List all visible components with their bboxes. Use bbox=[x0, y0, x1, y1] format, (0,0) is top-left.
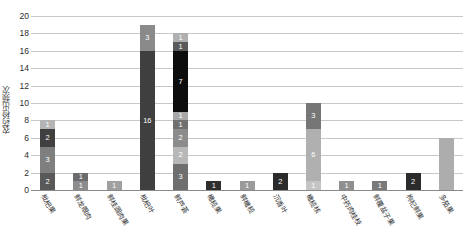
gridline bbox=[31, 33, 463, 34]
bar-segment[interactable]: 1 bbox=[240, 181, 255, 190]
bar-segment[interactable]: 1 bbox=[40, 120, 55, 129]
bar-segment[interactable]: 1 bbox=[339, 181, 354, 190]
bar-segment[interactable]: 2 bbox=[40, 129, 55, 146]
bar-segment[interactable]: 2 bbox=[406, 173, 421, 190]
y-tick-label: 6 bbox=[3, 133, 29, 142]
bar-segment[interactable]: 1 bbox=[73, 173, 88, 182]
y-tick-label: 14 bbox=[3, 64, 29, 73]
bar-column[interactable]: 163 bbox=[306, 103, 321, 190]
bar-segment[interactable]: 3 bbox=[40, 147, 55, 173]
bar-segment[interactable]: 1 bbox=[206, 181, 221, 190]
x-tick-label: 橄榄果 bbox=[205, 193, 222, 215]
bar-segment[interactable]: 2 bbox=[40, 173, 55, 190]
bar-segment[interactable]: 6 bbox=[306, 129, 321, 181]
x-tick-label: 鲜橄榄 bbox=[238, 193, 255, 215]
bar-segment[interactable]: 2 bbox=[173, 147, 188, 164]
gridline bbox=[31, 155, 463, 156]
bar-segment[interactable]: 1 bbox=[372, 181, 387, 190]
x-tick-label: 枸杞鲜果 bbox=[404, 193, 425, 221]
bar-column[interactable]: 11 bbox=[73, 173, 88, 190]
bar-segment[interactable]: 1 bbox=[173, 120, 188, 129]
gridline bbox=[31, 86, 463, 87]
y-tick-label: 12 bbox=[3, 81, 29, 90]
x-tick-label: 中药肉桂枝 bbox=[338, 193, 362, 227]
bar-column[interactable]: 2 bbox=[406, 173, 421, 190]
y-tick-label: 10 bbox=[3, 99, 29, 108]
y-tick-label: 16 bbox=[3, 46, 29, 55]
y-tick-label: 2 bbox=[3, 168, 29, 177]
bar-segment[interactable]: 3 bbox=[140, 25, 155, 51]
gridline bbox=[31, 138, 463, 139]
y-axis-tick-labels: 02468101214161820 bbox=[0, 16, 29, 190]
x-tick-label: 枇杷果 bbox=[39, 193, 56, 215]
x-axis-tick-labels: 枇杷果鲜龙眼肉鲜桂圆肉果枇杷叶鲜芦荟橄榄果鲜橄榄沉香叶橄榄核中药肉桂枝鲜覆盆子果… bbox=[31, 191, 463, 248]
bar-column[interactable] bbox=[439, 138, 454, 190]
bar-segment[interactable]: 1 bbox=[173, 33, 188, 42]
bar-column[interactable]: 1 bbox=[107, 181, 122, 190]
bar-segment[interactable]: 1 bbox=[73, 181, 88, 190]
bar-column[interactable]: 1 bbox=[339, 181, 354, 190]
gridline bbox=[31, 68, 463, 69]
bar-segment[interactable] bbox=[439, 138, 454, 190]
bar-column[interactable]: 2321 bbox=[40, 120, 55, 190]
bar-segment[interactable]: 3 bbox=[306, 103, 321, 129]
gridline bbox=[31, 120, 463, 121]
bar-column[interactable]: 32211711 bbox=[173, 33, 188, 190]
x-tick-label: 鲜桂圆肉果 bbox=[105, 193, 129, 227]
bar-segment[interactable]: 2 bbox=[273, 173, 288, 190]
bar-segment[interactable]: 2 bbox=[173, 129, 188, 146]
y-tick-label: 8 bbox=[3, 116, 29, 125]
gridline bbox=[31, 103, 463, 104]
gridline bbox=[31, 173, 463, 174]
y-tick-label: 20 bbox=[3, 12, 29, 21]
x-tick-label: 橄榄核 bbox=[305, 193, 322, 215]
x-tick-label: 沉香叶 bbox=[271, 193, 288, 215]
x-tick-label: 鲜覆盆子果 bbox=[371, 193, 395, 227]
gridline bbox=[31, 16, 463, 17]
bar-column[interactable]: 1 bbox=[372, 181, 387, 190]
stacked-bar-chart: 农药检出频次 02468101214161820 232111116332211… bbox=[0, 0, 469, 248]
bar-segment[interactable]: 1 bbox=[107, 181, 122, 190]
bar-column[interactable]: 163 bbox=[140, 25, 155, 190]
bar-segment[interactable]: 1 bbox=[306, 181, 321, 190]
bar-column[interactable]: 2 bbox=[273, 173, 288, 190]
bar-column[interactable]: 1 bbox=[206, 181, 221, 190]
x-tick-label: 枇杷叶 bbox=[138, 193, 155, 215]
bar-segment[interactable]: 16 bbox=[140, 51, 155, 190]
bar-segment[interactable]: 1 bbox=[173, 112, 188, 121]
y-tick-label: 18 bbox=[3, 29, 29, 38]
x-tick-label: 鲜龙眼肉 bbox=[72, 193, 93, 221]
plot-area: 232111116332211711112163112 bbox=[31, 16, 463, 190]
gridline bbox=[31, 51, 463, 52]
y-tick-label: 4 bbox=[3, 151, 29, 160]
bar-segment[interactable]: 7 bbox=[173, 51, 188, 112]
bar-segment[interactable]: 1 bbox=[173, 42, 188, 51]
x-tick-label: 鲜芦荟 bbox=[172, 193, 189, 215]
x-tick-label: 多茄果 bbox=[437, 193, 454, 215]
bar-column[interactable]: 1 bbox=[240, 181, 255, 190]
y-tick-label: 0 bbox=[3, 186, 29, 195]
bar-segment[interactable]: 3 bbox=[173, 164, 188, 190]
